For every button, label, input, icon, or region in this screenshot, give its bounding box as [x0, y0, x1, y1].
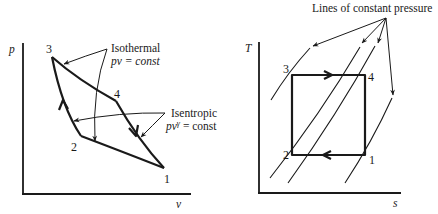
- s-axis-label: s: [393, 197, 398, 209]
- isentropic-annotation: Isentropic pvγ = const: [74, 107, 217, 137]
- constant-pressure-title: Lines of constant pressure: [312, 2, 432, 15]
- isentropic-pointer-arrow-left: [74, 113, 165, 121]
- pressure-pointer-arrow-1: [313, 18, 386, 46]
- ts-state-label-2: 2: [283, 148, 289, 162]
- isothermal-title: Isothermal: [111, 42, 160, 54]
- isothermal-formula: pv = const: [110, 55, 160, 68]
- ts-state-label-1: 1: [369, 153, 375, 167]
- p-axis-label: p: [8, 43, 15, 56]
- flow-arrow-2-3: [59, 100, 68, 110]
- state-label-1: 1: [164, 172, 170, 186]
- ts-state-label-4: 4: [368, 70, 374, 84]
- state-label-3: 3: [46, 42, 52, 56]
- v-axis-label: v: [176, 198, 182, 210]
- carnot-cycle-figure: p v 3 4 2 1 Isothermal pv = const Isentr…: [0, 0, 438, 214]
- constant-pressure-line-4: [345, 98, 392, 183]
- isentropic-pointer-arrow-right: [141, 113, 165, 137]
- isothermal-pointer-arrow-upper: [64, 49, 107, 64]
- state-label-2: 2: [71, 140, 77, 154]
- T-axis-label: T: [245, 42, 253, 54]
- isothermal-annotation: Isothermal pv = const: [64, 42, 160, 141]
- ts-diagram: T s 3 4 2 1 Lines of constant pressure: [245, 2, 432, 209]
- isentropic-formula: pvγ = const: [165, 119, 217, 133]
- ts-state-label-3: 3: [283, 62, 289, 76]
- pressure-pointer-arrow-4: [386, 18, 393, 95]
- constant-pressure-line-3: [288, 46, 375, 183]
- pv-diagram: p v 3 4 2 1 Isothermal pv = const Isentr…: [8, 42, 217, 210]
- state-label-4: 4: [114, 87, 120, 101]
- ts-cycle-rectangle: [292, 75, 365, 155]
